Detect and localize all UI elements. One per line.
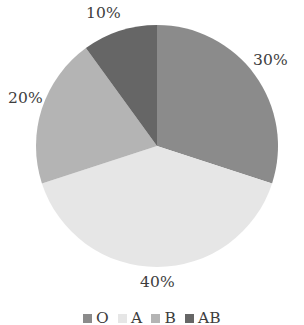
slice-label-o: 30% — [253, 53, 288, 69]
legend-swatch-ab-icon — [185, 314, 194, 323]
legend-item-ab[interactable]: AB — [185, 311, 221, 325]
slice-label-b: 20% — [8, 91, 43, 107]
legend-swatch-b-icon — [151, 314, 160, 323]
legend-label-ab: AB — [198, 311, 221, 325]
pie-chart: 10% 30% 20% 40% O A B AB — [0, 0, 304, 325]
legend-item-o[interactable]: O — [83, 311, 109, 325]
legend-item-b[interactable]: B — [151, 311, 176, 325]
legend-swatch-o-icon — [83, 314, 92, 323]
legend-label-a: A — [131, 311, 142, 325]
pie-slice-group — [36, 25, 278, 267]
slice-label-a: 40% — [140, 275, 175, 291]
legend-item-a[interactable]: A — [118, 311, 142, 325]
legend-swatch-a-icon — [118, 314, 127, 323]
chart-legend: O A B AB — [0, 311, 304, 325]
legend-label-o: O — [96, 311, 109, 325]
slice-label-ab: 10% — [86, 6, 121, 22]
legend-label-b: B — [164, 311, 176, 325]
